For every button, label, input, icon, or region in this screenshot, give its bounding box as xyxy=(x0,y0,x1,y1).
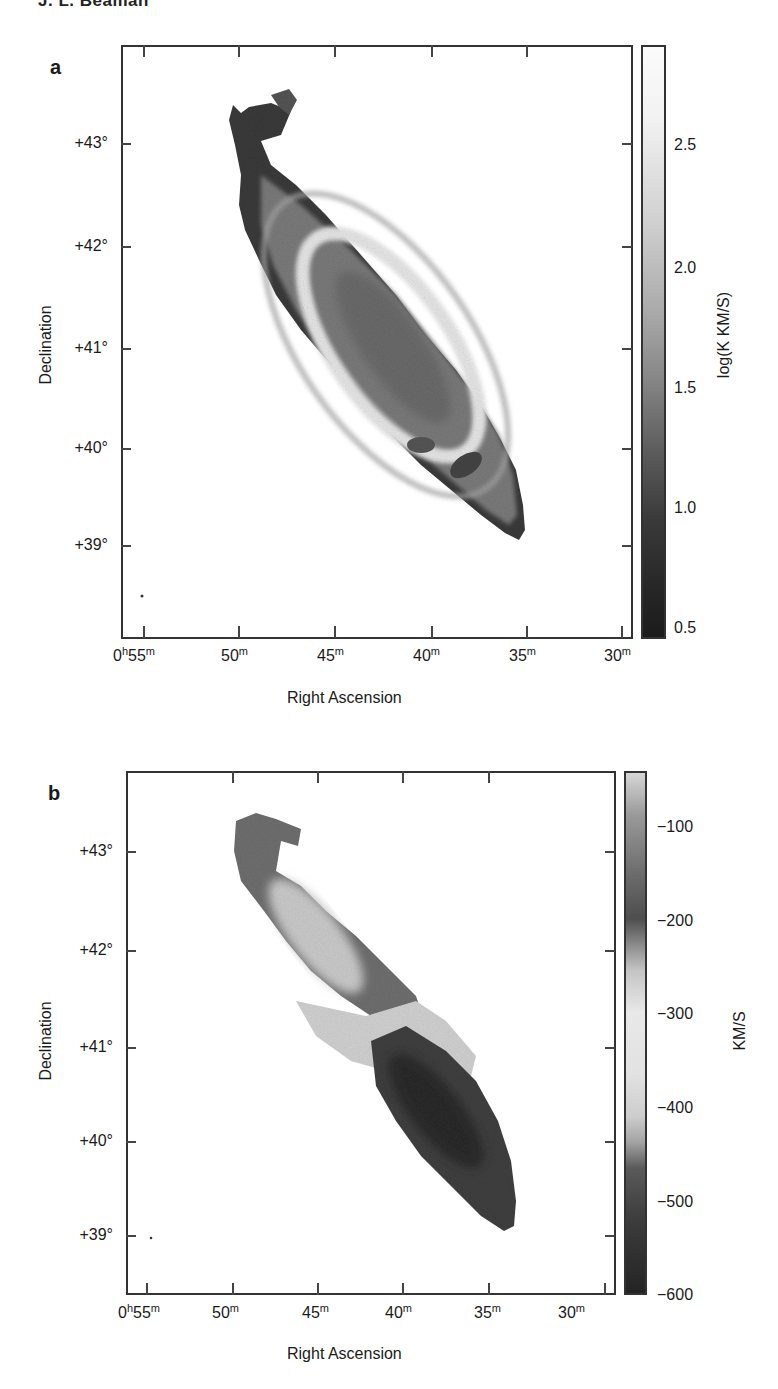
panel-letter-a: a xyxy=(50,56,61,79)
colorbar-tick: −500 xyxy=(657,1193,693,1211)
x-tick-label: 40m xyxy=(413,645,440,665)
colorbar-tick: 0.5 xyxy=(674,619,696,637)
x-tick-label: 0h55m xyxy=(118,1302,160,1322)
y-tick-label: +42° xyxy=(38,237,108,255)
x-axis-title-a: Right Ascension xyxy=(287,689,402,707)
y-tick-label: +39° xyxy=(43,1226,113,1244)
x-tick-label: 45m xyxy=(302,1302,329,1322)
y-tick-label: +39° xyxy=(38,536,108,554)
x-tick-label: 0h55m xyxy=(113,645,155,665)
x-tick-label: 30m xyxy=(558,1302,585,1322)
x-tick-label: 50m xyxy=(212,1302,239,1322)
point-source-dot xyxy=(141,595,144,598)
page-header-author: J. L. Beaman xyxy=(38,0,149,11)
galaxy-a xyxy=(216,89,556,540)
colorbar-tick: −100 xyxy=(657,818,693,836)
x-tick-label: 40m xyxy=(385,1302,412,1322)
y-tick-label: +40° xyxy=(43,1132,113,1150)
colorbar-tick: 2.0 xyxy=(674,259,696,277)
x-axis-title-b: Right Ascension xyxy=(287,1345,402,1363)
y-tick-label: +42° xyxy=(43,941,113,959)
colorbar-tick: −600 xyxy=(657,1286,693,1304)
panel-letter-b: b xyxy=(48,782,60,805)
y-tick-label: +40° xyxy=(38,439,108,457)
y-axis-title-b: Declination xyxy=(37,991,55,1091)
x-tick-label: 35m xyxy=(474,1302,501,1322)
x-tick-label: 35m xyxy=(509,645,536,665)
y-axis-title-a: Declination xyxy=(37,295,55,395)
colorbar-tick: −400 xyxy=(657,1099,693,1117)
colorbar-tick: −300 xyxy=(657,1005,693,1023)
y-tick-label: +43° xyxy=(38,134,108,152)
colorbar-tick: 1.0 xyxy=(674,499,696,517)
colorbar-label-b: KM/S xyxy=(731,1001,749,1061)
x-tick-label: 30m xyxy=(604,645,631,665)
point-source-dot xyxy=(150,1237,153,1240)
colorbar-tick: 1.5 xyxy=(674,379,696,397)
x-tick-label: 50m xyxy=(221,645,248,665)
colorbar-b xyxy=(624,771,647,1295)
intensity-map xyxy=(121,45,633,639)
colorbar-label-a: log(K KM/S) xyxy=(715,280,733,390)
y-tick-label: +43° xyxy=(43,842,113,860)
colorbar-tick: −200 xyxy=(657,912,693,930)
colorbar-tick: 2.5 xyxy=(674,136,696,154)
x-tick-label: 45m xyxy=(317,645,344,665)
galaxy-b xyxy=(234,813,516,1231)
colorbar-a xyxy=(641,45,666,639)
velocity-map xyxy=(126,771,616,1295)
